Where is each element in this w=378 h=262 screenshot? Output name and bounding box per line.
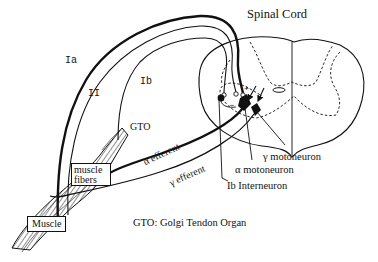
alpha-motoneuron-cell (238, 94, 251, 111)
gamma-motoneuron-label: γ motoneuron (263, 152, 321, 163)
diagram-canvas: Spinal Cord Ia II Ib GTO α efferent γ ef… (0, 0, 378, 262)
ia-fiber-label: Ia (65, 56, 77, 66)
ii-fiber-label: II (88, 89, 100, 99)
muscle-box: Muscle (27, 216, 66, 232)
legend-gto-definition: GTO: Golgi Tendon Organ (133, 218, 246, 229)
spinal-cord-title: Spinal Cord (247, 8, 307, 21)
gto-label: GTO (130, 122, 150, 132)
excitatory-sign: + (244, 84, 249, 93)
muscle-label: Muscle (32, 218, 61, 229)
muscle-fibers-box: muscle fibers (71, 163, 111, 186)
inhibitory-sign: − (229, 101, 234, 110)
muscle-body (12, 128, 128, 252)
muscle-fibers-label-line2: fibers (74, 174, 97, 185)
gamma-motoneuron-cell (251, 103, 261, 116)
alpha-motoneuron-label: α motoneuron (235, 165, 294, 176)
ib-interneuron-label: Ib Interneuron (227, 181, 287, 192)
ib-fiber-label: Ib (140, 77, 152, 87)
